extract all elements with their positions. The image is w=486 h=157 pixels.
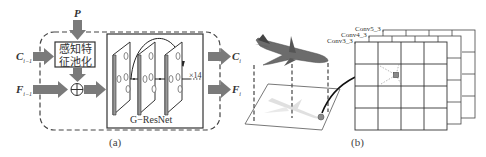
arrow-c-in	[33, 48, 54, 65]
sample-point	[318, 114, 324, 120]
input-p-label: P	[74, 7, 81, 19]
resnet-label: G−ResNet	[130, 114, 172, 125]
layer-label-conv3: Conv3_3	[327, 37, 353, 45]
arrow-block-to-sum	[69, 68, 86, 82]
pooling-block-label: 感知特 征池化	[55, 43, 95, 69]
output-f-label: Fi	[232, 83, 241, 97]
airplane-3d-model	[255, 34, 328, 66]
arrow-f-in	[33, 81, 68, 98]
caption-b: (b)	[351, 136, 364, 148]
input-c-label: Ci−1	[16, 50, 32, 64]
sampled-feature-point	[394, 73, 399, 78]
output-c-label: Ci	[232, 50, 241, 64]
caption-a: (a)	[109, 136, 121, 148]
panel-a-graphics	[0, 0, 486, 157]
projected-airplane	[264, 98, 320, 119]
arrow-sum-to-resnet	[84, 81, 106, 98]
input-f-label: Fi−1	[16, 83, 32, 97]
sum-node	[71, 84, 83, 96]
repeat-label: ×14	[189, 71, 202, 80]
arrow-p-down	[69, 20, 86, 40]
feature-map-conv3	[355, 42, 447, 130]
